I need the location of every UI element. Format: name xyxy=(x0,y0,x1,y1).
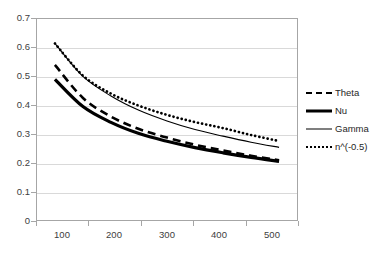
x-axis-label-1: 200 xyxy=(94,230,134,240)
x-tick xyxy=(246,221,247,226)
x-axis-label-2: 300 xyxy=(147,230,187,240)
y-axis-label-1: 0.6 xyxy=(0,42,30,52)
legend-item-theta[interactable]: Theta xyxy=(306,84,380,102)
legend-item-nu[interactable]: Nu xyxy=(306,102,380,120)
legend-swatch-solid-thin-icon xyxy=(306,124,332,134)
x-tick xyxy=(88,221,89,226)
legend-swatch-dashed-icon xyxy=(306,88,332,98)
legend-item-gamma[interactable]: Gamma xyxy=(306,120,380,138)
series-line-n-0-5 xyxy=(55,43,279,141)
y-axis-label-2: 0.5 xyxy=(0,71,30,81)
plot-area xyxy=(36,18,298,221)
series-line-gamma xyxy=(55,43,279,147)
y-axis-label-7: 0 xyxy=(0,216,30,226)
x-tick xyxy=(193,221,194,226)
legend-label-gamma: Gamma xyxy=(335,124,369,134)
chart-container: 0.7 0.6 0.5 0.4 0.3 0.2 0.1 0 xyxy=(0,0,380,259)
legend-item-n-power-neg-half[interactable]: n^(-0.5) xyxy=(306,138,380,156)
legend-label-nu: Nu xyxy=(335,106,347,116)
y-axis-label-6: 0.1 xyxy=(0,187,30,197)
y-axis-label-0: 0.7 xyxy=(0,13,30,23)
legend-swatch-dotted-icon xyxy=(306,142,332,152)
y-axis-label-3: 0.4 xyxy=(0,100,30,110)
chart-legend: Theta Nu Gamma n^(-0.5) xyxy=(306,84,380,156)
x-tick xyxy=(36,221,37,226)
x-axis-label-4: 500 xyxy=(252,230,292,240)
x-axis-label-0: 100 xyxy=(42,230,82,240)
legend-label-theta: Theta xyxy=(335,88,359,98)
legend-label-n-power-neg-half: n^(-0.5) xyxy=(335,142,367,152)
x-tick xyxy=(298,221,299,226)
series-plot xyxy=(37,19,297,220)
y-axis-label-5: 0.2 xyxy=(0,158,30,168)
y-axis-label-4: 0.3 xyxy=(0,129,30,139)
legend-swatch-solid-thick-icon xyxy=(306,106,332,116)
x-tick xyxy=(141,221,142,226)
x-axis-label-3: 400 xyxy=(199,230,239,240)
